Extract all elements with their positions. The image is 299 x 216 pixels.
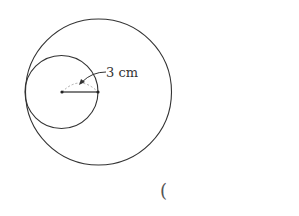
circles-diagram: 3 cm bbox=[0, 0, 299, 216]
answer-parenthesis: ( bbox=[160, 180, 167, 201]
center-point bbox=[60, 90, 63, 93]
edge-point bbox=[96, 90, 99, 93]
label-leader-line bbox=[82, 72, 106, 82]
radius-label: 3 cm bbox=[106, 65, 138, 80]
